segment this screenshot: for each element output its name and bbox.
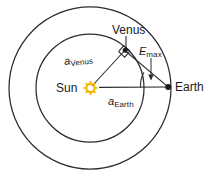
a-earth-label: aEarth: [108, 96, 134, 107]
emax-leader-arrow-icon: [148, 75, 154, 81]
a-earth-subscript: Earth: [114, 100, 134, 109]
venus-orbit-circle: [36, 34, 144, 142]
earth-label: Earth: [175, 81, 204, 93]
earth-dot-icon: [165, 84, 171, 90]
a-venus-label: aVenus: [63, 53, 93, 67]
earth-orbit-circle: [9, 7, 171, 169]
venus-label: Venus: [112, 24, 145, 36]
sun-label: Sun: [56, 82, 77, 94]
sun-starburst-icon: [84, 81, 98, 95]
emax-subscript: max: [146, 50, 161, 59]
sun-to-venus-line: [92, 51, 124, 86]
emax-label: Emax: [139, 46, 162, 57]
figure-canvas: Venus Sun Earth aVenus aEarth Emax: [0, 0, 210, 177]
venus-dot-icon: [123, 48, 128, 53]
